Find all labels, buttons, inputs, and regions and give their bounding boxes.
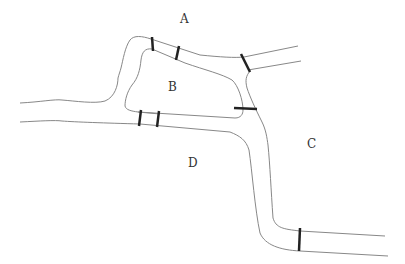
region-label-b: B bbox=[168, 80, 177, 94]
river-bank-west-north bbox=[20, 37, 298, 104]
region-label-d: D bbox=[188, 156, 198, 170]
region-label-c: C bbox=[307, 137, 316, 151]
river-bank-c-west bbox=[246, 71, 385, 236]
river-bank-d-north bbox=[20, 121, 388, 256]
bridge-4 bbox=[234, 108, 257, 109]
river-bank-east-south bbox=[248, 61, 301, 70]
bridge-7 bbox=[299, 228, 300, 251]
bridge-2 bbox=[176, 46, 179, 60]
bridge-1 bbox=[152, 37, 153, 51]
region-label-a: A bbox=[180, 12, 189, 26]
island-b-edge bbox=[125, 49, 243, 118]
bridges-diagram bbox=[0, 0, 405, 264]
